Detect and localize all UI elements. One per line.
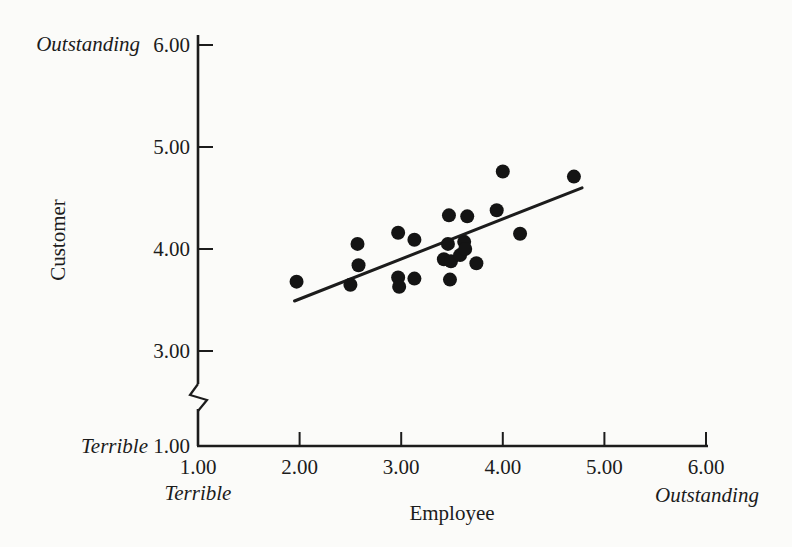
data-point <box>469 256 483 270</box>
data-point <box>407 272 421 286</box>
x-axis-min-label: Terrible <box>138 481 258 505</box>
y-axis-max-label: Outstanding <box>24 32 140 56</box>
x-tick-label: 5.00 <box>564 455 644 479</box>
trend-line <box>295 188 583 301</box>
data-point <box>496 164 510 178</box>
y-tick-label: 6.00 <box>130 33 190 57</box>
y-axis-title: Customer <box>46 160 70 320</box>
data-point <box>391 226 405 240</box>
data-point <box>460 209 474 223</box>
data-point <box>352 258 366 272</box>
data-point <box>458 242 472 256</box>
x-tick-label: 4.00 <box>463 455 543 479</box>
x-tick-label: 3.00 <box>361 455 441 479</box>
data-point <box>442 208 456 222</box>
data-point <box>567 170 581 184</box>
data-point <box>441 237 455 251</box>
y-axis-break <box>190 384 207 411</box>
data-point <box>290 275 304 289</box>
x-tick-label: 1.00 <box>158 455 238 479</box>
x-axis-max-label: Outstanding <box>637 483 777 507</box>
data-point <box>407 233 421 247</box>
y-tick-label: 4.00 <box>130 237 190 261</box>
x-tick-label: 2.00 <box>260 455 340 479</box>
data-point <box>343 278 357 292</box>
y-tick-label: 5.00 <box>130 135 190 159</box>
data-point <box>351 237 365 251</box>
data-point <box>392 280 406 294</box>
data-point <box>443 273 457 287</box>
y-tick-label: 3.00 <box>130 339 190 363</box>
scatter-plot-figure: Outstanding Terrible Customer 1.003.004.… <box>0 0 792 547</box>
x-tick-label: 6.00 <box>666 455 746 479</box>
data-point <box>513 227 527 241</box>
x-axis-title: Employee <box>382 501 522 525</box>
data-point <box>490 203 504 217</box>
